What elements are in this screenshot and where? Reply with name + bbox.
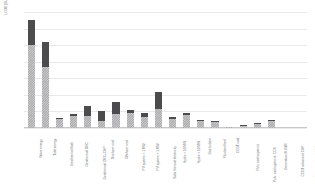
x-tick-label: Offshore wind bbox=[126, 140, 130, 159]
bar-segment-lower bbox=[197, 121, 204, 128]
bar-column bbox=[197, 120, 204, 128]
bar-segment-upper bbox=[98, 111, 105, 121]
bar-segment-lower bbox=[98, 121, 105, 128]
x-tick-label: Hydro < 10 MW bbox=[184, 141, 188, 163]
x-tick-label-text: Pulv. coal supercrit. CCS bbox=[275, 147, 279, 182]
x-tick-label: Pulv. coal supercrit. bbox=[257, 144, 261, 171]
bar-segment-lower bbox=[141, 117, 148, 128]
bar-column bbox=[254, 123, 261, 128]
x-tick-label-text: Onshore wind bbox=[112, 140, 116, 159]
bar-column bbox=[127, 110, 134, 128]
bar-column bbox=[141, 113, 148, 128]
bar-segment-upper bbox=[155, 92, 162, 109]
x-tick-label-text: Generation III LWR bbox=[285, 143, 289, 170]
x-tick-label-text: Geothermal ORC+CHP bbox=[104, 146, 108, 179]
x-tick-label-text: Geothermal ORC bbox=[86, 142, 90, 166]
gridline bbox=[24, 128, 307, 129]
x-tick-label-text: Wave energy bbox=[40, 139, 44, 157]
bar-column bbox=[112, 102, 119, 129]
x-tick-label-text: Gas turbine bbox=[209, 138, 213, 154]
bar-segment-upper bbox=[28, 20, 35, 45]
bar-segment-lower bbox=[226, 127, 233, 128]
bar-column bbox=[42, 42, 49, 128]
x-tick-label: Wave energy bbox=[40, 139, 44, 157]
x-tick-label: PV system < 1 MW bbox=[144, 143, 148, 170]
bar-column bbox=[183, 113, 190, 128]
x-tick-label-text: Geothermal flash bbox=[71, 142, 75, 166]
bar-column bbox=[98, 111, 105, 128]
bar-column bbox=[268, 120, 275, 128]
bar-segment-lower bbox=[127, 113, 134, 128]
bar-column bbox=[169, 117, 176, 128]
x-tick-label: Onshore wind bbox=[112, 140, 116, 159]
bar-column bbox=[84, 106, 91, 128]
bar-segment-lower bbox=[28, 45, 35, 128]
bar-segment-lower bbox=[70, 116, 77, 128]
bar-segment-lower bbox=[183, 115, 190, 128]
plot-area: 010203040506070 bbox=[24, 12, 307, 128]
x-tick-label: Hydro > 10 MW bbox=[198, 141, 202, 163]
bar-column bbox=[155, 92, 162, 128]
x-tick-label-text: Tidal energy bbox=[54, 139, 58, 156]
bar-column bbox=[70, 114, 77, 128]
x-tick-label: Generation III LWR bbox=[285, 143, 289, 170]
x-tick-label: Fluidised bed bbox=[224, 139, 228, 158]
x-tick-label: Geothermal flash bbox=[71, 142, 75, 166]
x-tick-label: Geothermal ORC+CHP bbox=[104, 146, 108, 179]
x-tick-label-text: PV system > 1 MW bbox=[158, 143, 162, 170]
bar-series-group bbox=[24, 12, 307, 128]
x-tick-label-text: PV system < 1 MW bbox=[144, 143, 148, 170]
bar-segment-lower bbox=[169, 119, 176, 128]
bar-column bbox=[240, 125, 247, 128]
x-tick-label-text: Hydro < 10 MW bbox=[184, 141, 188, 163]
x-tick-label-text: CCGT advanced CHP bbox=[301, 146, 305, 177]
bar-column bbox=[28, 20, 35, 128]
bar-segment-lower bbox=[112, 114, 119, 128]
x-tick-label-text: Hydro > 10 MW bbox=[198, 141, 202, 163]
bar-segment-lower bbox=[56, 119, 63, 128]
x-tick-label: Geothermal ORC bbox=[86, 142, 90, 166]
bar-segment-lower bbox=[211, 122, 218, 128]
bar-segment-upper bbox=[84, 106, 91, 117]
bar-segment-lower bbox=[84, 116, 91, 128]
x-tick-label: CCGT advanced CHP bbox=[301, 146, 305, 177]
x-tick-label: Pulv. coal supercrit. CCS bbox=[275, 147, 279, 182]
bar-column bbox=[211, 121, 218, 128]
bar-segment-lower bbox=[268, 121, 275, 128]
bar-segment-lower bbox=[155, 109, 162, 128]
x-tick-label: Gas turbine bbox=[209, 138, 213, 154]
lcoe-bar-chart: LCOE [EUR/MWh] 010203040506070 Wave ener… bbox=[0, 0, 315, 192]
bar-segment-lower bbox=[42, 67, 49, 128]
x-tick-label-text: Solar thermal electricity bbox=[175, 146, 179, 179]
x-tick-label-text: Offshore wind bbox=[126, 140, 130, 159]
x-tick-label-text: Fluidised bed bbox=[224, 139, 228, 158]
x-tick-label: CCGT coal bbox=[237, 138, 241, 154]
bar-column bbox=[56, 118, 63, 128]
x-tick-label-text: CCGT coal bbox=[237, 138, 241, 154]
bar-segment-lower bbox=[254, 124, 261, 128]
bar-column bbox=[226, 127, 233, 128]
bar-segment-upper bbox=[42, 42, 49, 67]
y-axis-title: LCOE [EUR/MWh] bbox=[5, 0, 8, 36]
x-tick-label-text: Pulv. coal supercrit. bbox=[257, 144, 261, 171]
bar-segment-upper bbox=[112, 102, 119, 114]
x-tick-label: Solar thermal electricity bbox=[175, 146, 179, 179]
x-tick-label: PV system > 1 MW bbox=[158, 143, 162, 170]
x-tick-label: Tidal energy bbox=[54, 139, 58, 156]
bar-segment-lower bbox=[240, 126, 247, 128]
x-axis-labels: Wave energyTidal energyGeothermal flashG… bbox=[24, 130, 307, 192]
